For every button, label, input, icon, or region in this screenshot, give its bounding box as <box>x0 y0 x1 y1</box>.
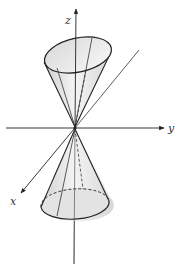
upper-nappe <box>41 31 115 127</box>
lower-nappe <box>40 129 114 221</box>
y-axis-label: y <box>167 122 175 135</box>
double-cone-diagram: z y x <box>0 0 178 270</box>
x-axis-label: x <box>10 195 17 208</box>
vertex-origin <box>73 126 76 129</box>
z-axis-label: z <box>64 14 71 27</box>
